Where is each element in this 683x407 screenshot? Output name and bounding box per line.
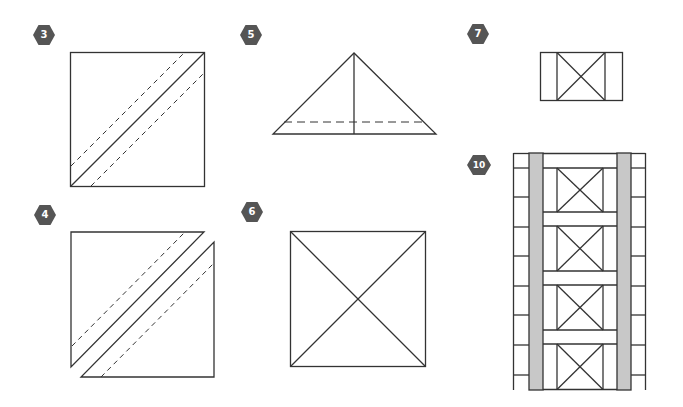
step-number: 7 bbox=[475, 29, 482, 39]
step-3-figure bbox=[71, 53, 205, 187]
step-number: 4 bbox=[42, 210, 49, 220]
step-number: 6 bbox=[249, 207, 256, 217]
step-badge-10: 10 bbox=[467, 155, 491, 175]
hourglass-block-2 bbox=[557, 226, 603, 271]
step-6-figure bbox=[291, 232, 426, 367]
step-badge-7: 7 bbox=[467, 24, 489, 44]
step-badge-6: 6 bbox=[241, 202, 263, 222]
diagram-canvas bbox=[0, 0, 683, 407]
step-7-figure bbox=[541, 53, 623, 101]
step-number: 10 bbox=[473, 161, 486, 170]
hourglass-block-1 bbox=[557, 168, 603, 212]
step-number: 3 bbox=[41, 30, 48, 40]
step-badge-4: 4 bbox=[34, 205, 56, 225]
hourglass-block-3 bbox=[557, 285, 603, 330]
step-badge-3: 3 bbox=[33, 25, 55, 45]
hourglass-block-4 bbox=[557, 344, 603, 390]
step-10-figure bbox=[514, 153, 646, 390]
step-badge-5: 5 bbox=[240, 25, 262, 45]
step-5-figure bbox=[273, 53, 436, 134]
step-4-figure bbox=[71, 232, 214, 377]
step-number: 5 bbox=[248, 30, 255, 40]
